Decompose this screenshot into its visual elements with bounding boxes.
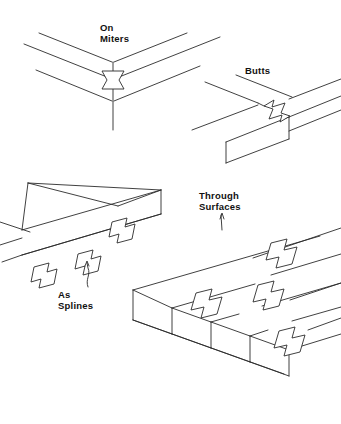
leader-through-surfaces-arrow (220, 213, 224, 219)
butterfly-key-spline-1 (31, 263, 57, 288)
butterfly-key-miter (102, 71, 124, 89)
butterfly-key-butt (264, 100, 290, 122)
label-as-splines-line2: Splines (58, 300, 93, 311)
label-as-splines-line1: As (58, 289, 71, 300)
miter-left-arm (24, 33, 112, 101)
label-on-miters-line1: On (100, 22, 114, 33)
figure-through-surfaces: Through Surfaces (133, 190, 341, 376)
label-through-surfaces-line2: Surfaces (199, 201, 241, 212)
butterfly-key-spline-3 (109, 218, 135, 243)
leader-through-surfaces (221, 215, 222, 230)
figure-butts: Butts (192, 65, 341, 163)
joinery-diagram: On Miters Butts (0, 0, 341, 424)
butterfly-key-through-4 (274, 327, 305, 356)
butterfly-key-through-2 (191, 289, 222, 318)
diagram-canvas: On Miters Butts (0, 0, 341, 424)
butterfly-key-through-1 (266, 239, 297, 268)
label-through-surfaces-line1: Through (199, 190, 239, 201)
label-butts: Butts (245, 65, 270, 76)
figure-on-miters: On Miters (24, 22, 220, 130)
label-on-miters-line2: Miters (100, 33, 129, 44)
miter-right-arm (114, 33, 220, 101)
butterfly-key-through-3 (253, 281, 284, 310)
